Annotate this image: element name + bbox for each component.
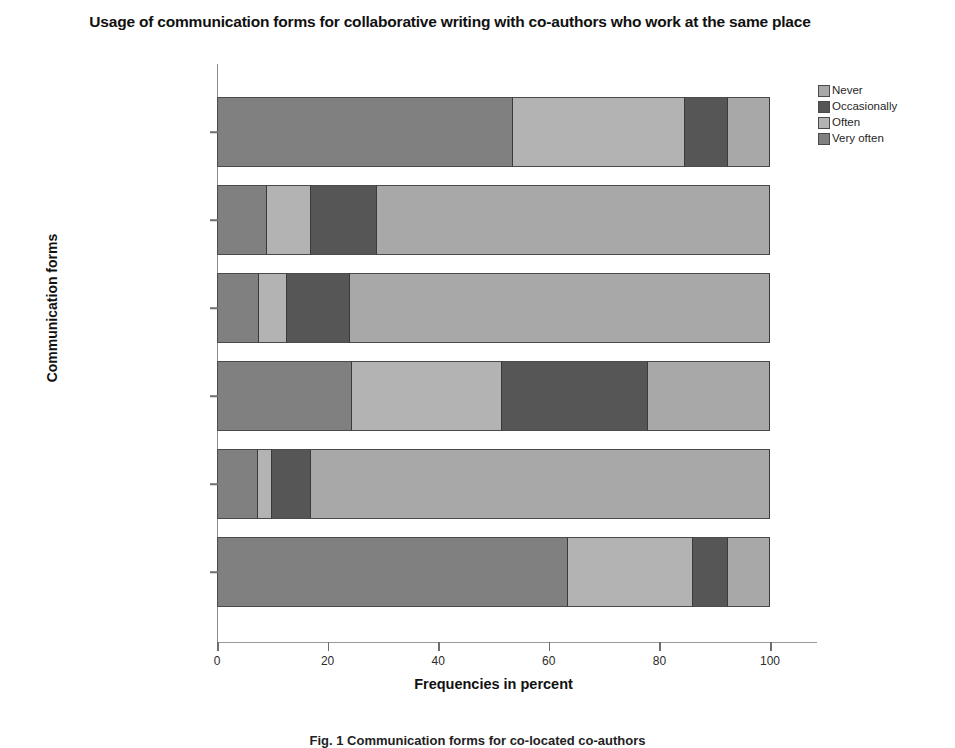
- legend-swatch-icon: [818, 117, 830, 129]
- stacked-bar: [217, 361, 770, 431]
- x-tick: [770, 642, 772, 651]
- x-tick-label: 60: [542, 654, 555, 668]
- plot-area: [217, 64, 770, 642]
- bar-segment: [259, 273, 287, 343]
- bar-segment: [217, 273, 259, 343]
- chart-legend: NeverOccasionallyOftenVery often: [818, 83, 948, 147]
- bar-segment: [728, 97, 770, 167]
- bar-row: [217, 185, 770, 255]
- bar-row: [217, 97, 770, 167]
- bar-segment: [693, 537, 728, 607]
- legend-label: Never: [832, 85, 863, 97]
- figure-caption: Fig. 1 Communication forms for co-locate…: [0, 733, 955, 748]
- x-tick: [659, 642, 661, 651]
- x-tick-label: 100: [760, 654, 780, 668]
- bar-segment: [311, 185, 377, 255]
- category-tick: [210, 307, 218, 309]
- stacked-bar: [217, 97, 770, 167]
- category-tick: [210, 395, 218, 397]
- y-axis-title: Communication forms: [44, 198, 60, 418]
- legend-label: Often: [832, 117, 860, 129]
- bar-segment: [350, 273, 770, 343]
- bar-segment: [728, 537, 770, 607]
- category-tick: [210, 483, 218, 485]
- bar-segment: [377, 185, 770, 255]
- bar-segment: [685, 97, 728, 167]
- category-tick: [210, 131, 218, 133]
- category-tick: [210, 571, 218, 573]
- legend-item: Occasionally: [818, 99, 948, 115]
- bar-segment: [502, 361, 649, 431]
- bar-segment: [217, 449, 258, 519]
- bar-segment: [352, 361, 501, 431]
- bar-row: [217, 273, 770, 343]
- x-tick-label: 0: [214, 654, 221, 668]
- legend-item: Very often: [818, 131, 948, 147]
- x-tick: [217, 642, 219, 651]
- stacked-bar: [217, 449, 770, 519]
- bar-row: [217, 361, 770, 431]
- x-tick-label: 40: [432, 654, 445, 668]
- bar-segment: [272, 449, 311, 519]
- stacked-bar: [217, 273, 770, 343]
- bar-row: [217, 449, 770, 519]
- bar-segment: [258, 449, 272, 519]
- bar-segment: [217, 97, 513, 167]
- x-tick: [328, 642, 330, 651]
- bar-segment: [513, 97, 685, 167]
- bar-segment: [267, 185, 311, 255]
- stacked-bar: [217, 185, 770, 255]
- bar-segment: [287, 273, 350, 343]
- x-axis-line: [217, 642, 817, 643]
- bar-segment: [311, 449, 770, 519]
- legend-label: Very often: [832, 133, 884, 145]
- legend-item: Often: [818, 115, 948, 131]
- bar-segment: [217, 537, 568, 607]
- bar-segment: [648, 361, 770, 431]
- bar-segment: [568, 537, 692, 607]
- bar-segment: [217, 361, 352, 431]
- x-axis-title: Frequencies in percent: [217, 676, 770, 692]
- legend-item: Never: [818, 83, 948, 99]
- legend-swatch-icon: [818, 101, 830, 113]
- x-tick: [549, 642, 551, 651]
- x-tick-label: 20: [321, 654, 334, 668]
- legend-swatch-icon: [818, 85, 830, 97]
- legend-label: Occasionally: [832, 101, 897, 113]
- x-tick-label: 80: [653, 654, 666, 668]
- bar-segment: [217, 185, 267, 255]
- chart-title: Usage of communication forms for collabo…: [60, 12, 840, 31]
- x-tick: [438, 642, 440, 651]
- legend-swatch-icon: [818, 133, 830, 145]
- bar-row: [217, 537, 770, 607]
- category-tick: [210, 219, 218, 221]
- stacked-bar: [217, 537, 770, 607]
